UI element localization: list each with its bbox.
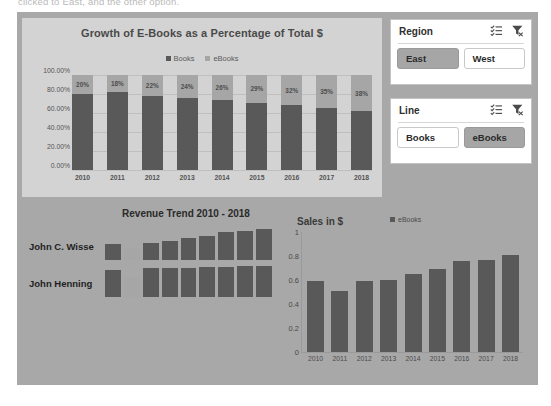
spark-bar-2018 [256, 266, 272, 297]
sales-chart-x-axis: 201020112012201320142015201620172018 [303, 355, 523, 362]
slicer-region[interactable]: Region East West [390, 19, 532, 85]
y-tick-40: 40.00% [47, 124, 70, 131]
legend-swatch-ebooks [205, 56, 210, 61]
sales-bar-2013[interactable] [380, 280, 397, 352]
spark-bar-2016 [218, 267, 234, 297]
sales-x-tick-2015: 2015 [429, 355, 446, 362]
cut-off-body-text: clicked to East, and the other option. [18, 0, 318, 8]
spark-bar-2018 [256, 229, 272, 260]
growth-bar-books-2014 [212, 100, 233, 170]
legend-label-books: Books [174, 54, 195, 63]
slicer-region-divider [398, 43, 524, 44]
y-tick-20: 20.00% [47, 143, 70, 150]
y-tick-0: 0.00% [51, 162, 70, 169]
table-row[interactable]: John C. Wisse [29, 229, 272, 260]
growth-bar-label-2011: 18% [107, 75, 128, 92]
slicer-line-title: Line [399, 105, 420, 116]
growth-bar-2012[interactable]: 22% [142, 75, 163, 170]
growth-bar-2018[interactable]: 38% [351, 75, 372, 170]
growth-bar-books-2013 [177, 98, 198, 170]
spark-bar-2010 [105, 270, 121, 297]
sales-bar-2017[interactable] [478, 260, 495, 352]
clear-filter-icon[interactable] [511, 103, 524, 116]
sales-bar-2018[interactable] [502, 255, 519, 352]
spark-bar-2014 [181, 238, 197, 260]
growth-x-tick-2015: 2015 [246, 174, 267, 181]
sales-bar-2015[interactable] [429, 269, 446, 352]
growth-bar-label-2015: 29% [246, 75, 267, 103]
sales-chart-title: Sales in $ [297, 216, 343, 227]
y-tick-100: 100.00% [43, 67, 70, 74]
spark-bar-2012 [143, 268, 159, 297]
sales-bar-2016[interactable] [453, 261, 470, 352]
spark-bar-2015 [199, 267, 215, 297]
y-tick-80: 80.00% [47, 86, 70, 93]
growth-bar-2010[interactable]: 20% [72, 75, 93, 170]
growth-bar-2017[interactable]: 35% [316, 75, 337, 170]
dashboard-canvas: Growth of E-Books as a Percentage of Tot… [17, 12, 538, 385]
sales-bar-2012[interactable] [356, 281, 373, 352]
sales-y-tick-08: 0.8 [289, 252, 299, 261]
slicer-line-option-ebooks[interactable]: eBooks [464, 127, 526, 148]
growth-bar-2015[interactable]: 29% [246, 75, 267, 170]
growth-bar-label-2014: 26% [212, 75, 233, 100]
sales-y-tick-04: 0.4 [289, 300, 299, 309]
growth-x-tick-2011: 2011 [107, 174, 128, 181]
slicer-line[interactable]: Line Books eBooks [390, 98, 532, 164]
growth-bar-label-2017: 35% [316, 75, 337, 108]
slicer-line-divider [398, 122, 524, 123]
growth-bar-2011[interactable]: 18% [107, 75, 128, 170]
clear-filter-icon[interactable] [511, 24, 524, 37]
revenue-row-label-henning: John Henning [29, 278, 105, 297]
sales-chart-bars[interactable] [303, 232, 523, 352]
legend-swatch-books [166, 56, 171, 61]
spark-bar-2012 [143, 243, 159, 260]
sales-chart-panel[interactable]: Sales in $ eBooks 1 0.8 0.6 0.4 0.2 0 20… [275, 208, 533, 380]
spark-bar-2010 [105, 244, 121, 260]
sales-y-tick-02: 0.2 [289, 324, 299, 333]
growth-chart-title: Growth of E-Books as a Percentage of Tot… [22, 27, 382, 39]
slicer-line-option-books[interactable]: Books [397, 127, 459, 148]
growth-x-tick-2016: 2016 [281, 174, 302, 181]
slicer-region-options: East West [397, 48, 525, 69]
spark-bar-2014 [181, 268, 197, 297]
growth-x-tick-2013: 2013 [177, 174, 198, 181]
growth-bar-label-2012: 22% [142, 75, 163, 96]
sales-chart-y-axis-line [301, 232, 302, 353]
legend-item-books: Books [166, 54, 195, 63]
legend-item-ebooks: eBooks [205, 54, 238, 63]
slicer-region-option-east[interactable]: East [397, 48, 459, 69]
sales-x-tick-2013: 2013 [380, 355, 397, 362]
multi-select-icon[interactable] [490, 103, 503, 116]
spark-bar-2011 [124, 248, 140, 260]
growth-bar-label-2010: 20% [72, 75, 93, 94]
growth-chart-y-axis: 100.00% 80.00% 60.00% 40.00% 20.00% 0.00… [25, 70, 70, 170]
growth-bar-books-2015 [246, 103, 267, 170]
sales-bar-2014[interactable] [405, 274, 422, 352]
growth-bar-2014[interactable]: 26% [212, 75, 233, 170]
sparkline-henning [105, 266, 272, 297]
legend-label-ebooks: eBooks [398, 216, 421, 223]
sales-y-tick-0: 0 [295, 348, 299, 357]
sales-x-tick-2011: 2011 [331, 355, 348, 362]
sparkline-wisse [105, 229, 272, 260]
spark-bar-2015 [199, 236, 215, 260]
revenue-trend-panel[interactable]: Revenue Trend 2010 - 2018 John C. Wisse … [29, 208, 272, 304]
sales-bar-2010[interactable] [307, 281, 324, 352]
growth-chart-panel[interactable]: Growth of E-Books as a Percentage of Tot… [22, 18, 382, 197]
slicer-region-option-west[interactable]: West [464, 48, 526, 69]
sales-x-tick-2010: 2010 [307, 355, 324, 362]
growth-bar-books-2016 [281, 105, 302, 170]
growth-bar-books-2012 [142, 96, 163, 170]
table-row[interactable]: John Henning [29, 266, 272, 297]
growth-bar-2013[interactable]: 24% [177, 75, 198, 170]
spark-bar-2011 [124, 277, 140, 297]
growth-bar-books-2018 [351, 111, 372, 170]
multi-select-icon[interactable] [490, 24, 503, 37]
slicer-region-title: Region [399, 26, 433, 37]
growth-bar-2016[interactable]: 32% [281, 75, 302, 170]
sales-bar-2011[interactable] [331, 291, 348, 352]
growth-bar-books-2017 [316, 108, 337, 170]
slicer-line-options: Books eBooks [397, 127, 525, 148]
growth-chart-bars[interactable]: 20%18%22%24%26%29%32%35%38% [72, 75, 372, 170]
